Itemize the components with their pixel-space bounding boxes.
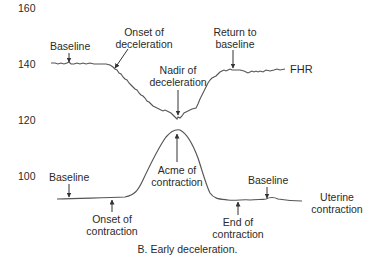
fhr-onset-arrow — [115, 49, 128, 68]
fhr-baseline-label: Baseline — [50, 40, 90, 52]
fhr-return-line1: Return to — [205, 26, 265, 38]
fhr-nadir-line2: deceleration — [143, 76, 213, 88]
fhr-return-line2: baseline — [205, 38, 265, 50]
ut-label-line1: Uterine — [302, 191, 372, 203]
ut-acme-label: Acme of contraction — [146, 164, 208, 188]
fhr-nadir-line1: Nadir of — [143, 64, 213, 76]
ut-end-line2: contraction — [208, 228, 268, 240]
ut-end-label: End of contraction — [208, 216, 268, 240]
fhr-onset-line1: Onset of — [104, 26, 184, 38]
ut-end-line1: End of — [208, 216, 268, 228]
ut-baseline-right-label: Baseline — [248, 174, 288, 186]
fhr-trace-label: FHR — [290, 63, 313, 75]
ut-acme-line2: contraction — [146, 176, 208, 188]
ut-onset-line2: contraction — [82, 225, 142, 237]
figure-caption: B. Early deceleration. — [0, 243, 375, 255]
ut-onset-line1: Onset of — [82, 213, 142, 225]
ut-trace-label: Uterine contraction — [302, 191, 372, 215]
fhr-return-label: Return to baseline — [205, 26, 265, 50]
ut-onset-label: Onset of contraction — [82, 213, 142, 237]
ut-acme-line1: Acme of — [146, 164, 208, 176]
fhr-onset-line2: deceleration — [104, 38, 184, 50]
fhr-onset-label: Onset of deceleration — [104, 26, 184, 50]
ut-baseline-left-label: Baseline — [49, 171, 89, 183]
ut-label-line2: contraction — [302, 203, 372, 215]
fhr-nadir-label: Nadir of deceleration — [143, 64, 213, 88]
